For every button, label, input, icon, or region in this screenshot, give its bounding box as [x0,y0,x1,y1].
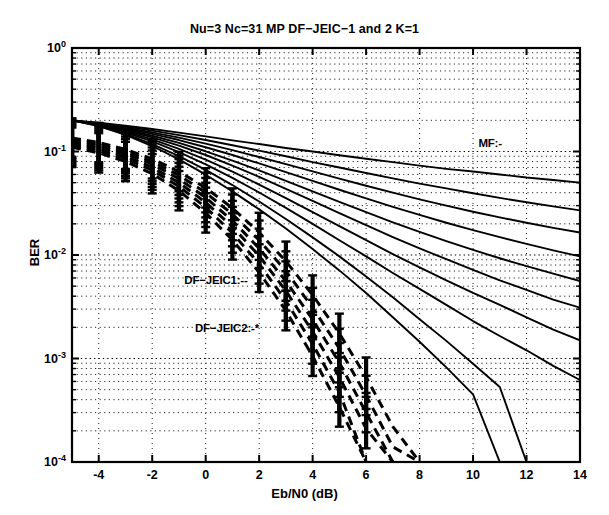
x-tick-label: 14 [560,468,600,482]
x-tick-label: 10 [453,468,493,482]
x-tick-label: 4 [293,468,333,482]
plot-svg [0,0,609,515]
x-tick-label: 6 [346,468,386,482]
y-tick-label: 10-1 [14,143,66,159]
series-line [72,145,366,462]
x-tick-label: 8 [400,468,440,482]
y-tick-label: 10-3 [14,350,66,366]
curve-annotation: MF:- [478,137,501,149]
figure-canvas: Nu=3 Nc=31 MP DF−JEIC−1 and 2 K=1 -4-202… [0,0,609,515]
x-tick-label: 0 [186,468,226,482]
y-axis-label: BER [27,213,42,293]
x-tick-label: -4 [79,468,119,482]
x-tick-label: -2 [132,468,172,482]
y-tick-label: 100 [14,39,66,55]
x-tick-label: 12 [507,468,547,482]
curve-annotation: DF−JEIC2:-* [195,322,259,334]
x-tick-label: 2 [239,468,279,482]
series-line [72,120,527,462]
curve-annotation: DF−JEIC1:-- [184,274,247,286]
curves-layer [72,120,580,462]
x-axis-label: Eb/N0 (dB) [0,486,609,501]
y-tick-label: 10-4 [14,453,66,469]
